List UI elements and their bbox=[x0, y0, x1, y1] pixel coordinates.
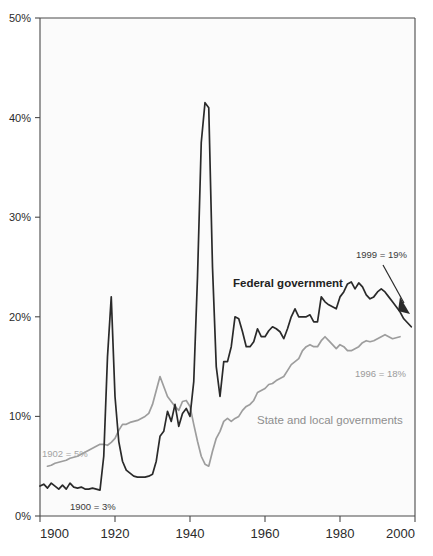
annotation-1996-state: 1996 = 18% bbox=[355, 368, 407, 379]
x-tick-label: 1900 bbox=[40, 526, 69, 541]
x-tick-label: 1980 bbox=[326, 526, 355, 541]
chart-container: 0%10%20%30%40%50% 1900192019401960198020… bbox=[0, 0, 433, 556]
annotation-1999-federal: 1999 = 19% bbox=[356, 249, 408, 260]
plot-area-background bbox=[40, 18, 415, 516]
y-tick-label: 50% bbox=[9, 12, 31, 24]
y-tick-label: 20% bbox=[9, 311, 31, 323]
series-label-federal: Federal government bbox=[233, 277, 343, 289]
x-tick-label: 1960 bbox=[251, 526, 280, 541]
y-tick-label: 10% bbox=[9, 410, 31, 422]
series-label-state-local: State and local governments bbox=[257, 414, 403, 426]
annotation-1902-state: 1902 = 5% bbox=[42, 448, 88, 459]
x-tick-label: 1920 bbox=[101, 526, 130, 541]
y-tick-label: 30% bbox=[9, 211, 31, 223]
y-tick-label: 40% bbox=[9, 112, 31, 124]
line-chart: 0%10%20%30%40%50% 1900192019401960198020… bbox=[0, 0, 433, 556]
annotation-1900-federal: 1900 = 3% bbox=[70, 501, 116, 512]
x-tick-label: 2000 bbox=[386, 526, 415, 541]
x-tick-label: 1940 bbox=[176, 526, 205, 541]
y-tick-label: 0% bbox=[15, 510, 31, 522]
